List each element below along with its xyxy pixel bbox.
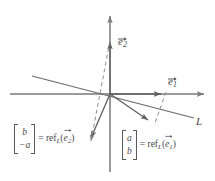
matrix-entry-top: a: [127, 132, 132, 145]
matrix-entry-bottom: b: [127, 145, 132, 158]
matrix-refl-e1: a b: [122, 130, 137, 160]
equals-sign: =: [38, 133, 43, 143]
vector-accent-icon: [118, 36, 127, 41]
vector-refl-e1: [110, 94, 148, 120]
matrix-entry-bottom: −a: [19, 139, 30, 152]
close-paren: ): [71, 133, 74, 143]
equals-sign: =: [140, 139, 145, 149]
e2-accent-arrow: e: [118, 36, 123, 47]
refl-e2-equation: b −a = refL(e2): [14, 124, 74, 154]
ref-function-name: ref: [46, 133, 57, 143]
refl-e1-expression: = refL(e1): [140, 139, 176, 151]
matrix-right-bracket: [133, 130, 137, 160]
ref-function-name: ref: [147, 139, 158, 149]
close-paren: ): [173, 139, 176, 149]
e1-subscript: 1: [173, 80, 177, 89]
vector-label-e2: e 2: [118, 36, 127, 49]
matrix-left-bracket: [14, 124, 18, 154]
vector-accent-icon: [168, 76, 177, 81]
line-label-L: L: [196, 116, 202, 127]
arg-base: e: [64, 133, 68, 143]
vector-accent-icon: [64, 128, 72, 132]
matrix-entry-top: b: [19, 126, 30, 139]
arg-accent-arrow: e: [165, 139, 169, 149]
reflection-diagram: e 2 e 1 L b −a = refL(e2) a b = r: [0, 0, 215, 181]
matrix-left-bracket: [122, 130, 126, 160]
dashed-line-e1: [155, 92, 166, 123]
vector-label-e1: e 1: [168, 76, 177, 89]
refl-e1-equation: a b = refL(e1): [122, 130, 176, 160]
arg-accent-arrow: e: [64, 133, 68, 143]
vector-accent-icon: [165, 134, 173, 138]
refl-e2-expression: = refL(e2): [38, 133, 74, 145]
matrix-right-bracket: [31, 124, 35, 154]
dashed-line-e2: [91, 41, 110, 141]
e2-subscript: 2: [123, 40, 127, 49]
e1-accent-arrow: e: [168, 76, 173, 87]
matrix-refl-e2: b −a: [14, 124, 35, 154]
vector-refl-e2: [91, 94, 110, 138]
arg-base: e: [165, 139, 169, 149]
